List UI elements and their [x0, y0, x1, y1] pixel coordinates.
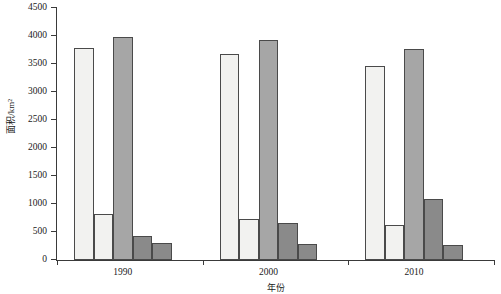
bar-group: [57, 8, 203, 260]
bar: [278, 223, 298, 260]
bar: [424, 199, 444, 260]
bar: [74, 48, 94, 260]
bar: [220, 54, 240, 260]
x-axis-title: 年份: [267, 281, 285, 294]
plot-area: 050010001500200025003000350040004500 199…: [56, 8, 494, 261]
y-axis-tick-label: 3500: [28, 59, 47, 69]
y-axis-tick-label: 4000: [28, 31, 47, 41]
y-axis-tick-label: 500: [33, 227, 47, 237]
bar: [404, 49, 424, 260]
bar: [239, 219, 259, 260]
y-axis-tick-label: 4500: [28, 3, 47, 13]
x-axis-tick: [203, 260, 204, 265]
bar-group: [348, 8, 494, 260]
y-axis-tick-label: 1500: [28, 171, 47, 181]
y-axis-tick-label: 0: [42, 255, 47, 265]
bar: [133, 236, 153, 260]
y-axis-tick-label: 3000: [28, 87, 47, 97]
y-axis-tick-label: 2500: [28, 115, 47, 125]
bar: [113, 37, 133, 260]
x-axis-tick-label: 2000: [259, 267, 278, 277]
bar: [298, 244, 318, 260]
x-axis-tick: [57, 260, 58, 265]
bar: [365, 66, 385, 260]
y-axis-title: 面积/km²: [4, 82, 17, 152]
y-axis-tick-label: 1000: [28, 199, 47, 209]
x-axis-tick: [348, 260, 349, 265]
bar: [443, 245, 463, 260]
bar: [152, 243, 172, 260]
x-axis-tick: [494, 260, 495, 265]
bar: [259, 40, 279, 260]
bar: [94, 214, 114, 260]
y-axis-tick-label: 2000: [28, 143, 47, 153]
x-axis-tick-label: 2010: [405, 267, 424, 277]
bar-group: [203, 8, 349, 260]
bar: [385, 225, 405, 260]
x-axis-tick-label: 1990: [113, 267, 132, 277]
